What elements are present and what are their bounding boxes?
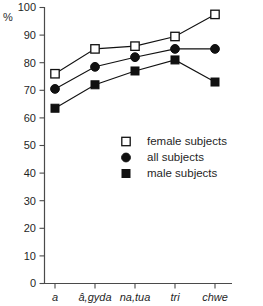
legend-3-filled-square-marker [122, 170, 130, 178]
y-tick-label: 80 [24, 57, 36, 69]
legend-item-1: female subjects [122, 135, 227, 147]
series-3-point-5-filled-square-marker [211, 78, 219, 86]
series-2-point-2-filled-circle-marker [91, 62, 100, 71]
y-tick-label: 0 [30, 277, 36, 289]
series-1-point-1-open-square-marker [51, 70, 59, 78]
x-tick-label: chwe [202, 291, 228, 303]
legend-1-open-square-marker [122, 137, 130, 145]
legend-label: male subjects [147, 167, 218, 179]
y-tick-label: 70 [24, 84, 36, 96]
y-tick-label: 90 [24, 29, 36, 41]
chart-legend: female subjectsall subjectsmale subjects [122, 135, 228, 179]
series-3 [51, 56, 219, 112]
series-1-point-3-open-square-marker [131, 42, 139, 50]
series-1-point-2-open-square-marker [91, 45, 99, 53]
y-tick-label: 50 [24, 139, 36, 151]
series-3-point-1-filled-square-marker [51, 104, 59, 112]
y-tick-label: 10 [24, 250, 36, 262]
y-tick-label: 40 [24, 167, 36, 179]
series-2-point-5-filled-circle-marker [211, 45, 220, 54]
series-1-point-4-open-square-marker [171, 32, 179, 40]
y-tick-label: 60 [24, 112, 36, 124]
series-group [51, 10, 220, 112]
series-1-point-5-open-square-marker [211, 10, 219, 18]
line-chart-plot: 0102030405060708090100 aâ,gydana,tuatric… [0, 0, 263, 306]
x-tick-label: â,gyda [78, 291, 111, 303]
series-2-point-4-filled-circle-marker [171, 45, 180, 54]
series-2-point-1-filled-circle-marker [51, 85, 60, 94]
x-tick-label: na,tua [120, 291, 151, 303]
series-3-point-4-filled-square-marker [171, 56, 179, 64]
x-axis-ticks: aâ,gydana,tuatrichwe [52, 284, 228, 304]
y-tick-label: 30 [24, 195, 36, 207]
legend-item-2: all subjects [122, 151, 205, 163]
y-tick-label: 20 [24, 222, 36, 234]
legend-label: all subjects [147, 151, 204, 163]
x-tick-label: a [52, 291, 58, 303]
chart-container: % 0102030405060708090100 aâ,gydana,tuatr… [0, 0, 263, 306]
y-axis-ticks: 0102030405060708090100 [18, 1, 45, 289]
series-3-point-2-filled-square-marker [91, 81, 99, 89]
series-2-point-3-filled-circle-marker [131, 53, 140, 62]
legend-2-filled-circle-marker [122, 153, 131, 162]
y-tick-label: 100 [18, 1, 36, 13]
series-3-point-3-filled-square-marker [131, 67, 139, 75]
legend-item-3: male subjects [122, 167, 218, 179]
x-tick-label: tri [170, 291, 180, 303]
legend-label: female subjects [147, 135, 227, 147]
